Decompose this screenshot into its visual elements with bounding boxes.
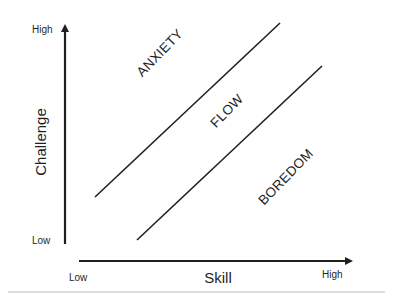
x-axis-low-label: Low: [69, 272, 88, 283]
lower-channel-line: [137, 66, 322, 240]
x-axis-high-label: High: [322, 269, 343, 280]
y-axis-high-label: High: [32, 24, 53, 35]
y-axis-title: Challenge: [32, 108, 49, 176]
y-axis-low-label: Low: [32, 235, 51, 246]
zone-label-flow: FLOW: [207, 91, 246, 130]
flow-diagram: High Low Low High Challenge Skill ANXIET…: [0, 0, 395, 306]
x-axis-title: Skill: [204, 269, 232, 286]
zone-label-anxiety: ANXIETY: [134, 26, 186, 79]
upper-channel-line: [95, 23, 280, 197]
zone-label-boredom: BOREDOM: [255, 146, 316, 208]
